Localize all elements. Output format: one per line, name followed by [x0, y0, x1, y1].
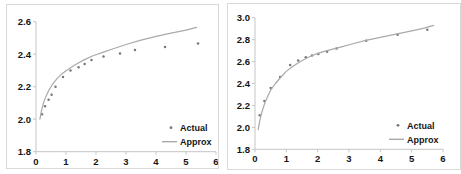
legend-approx-label: Approx	[180, 137, 212, 147]
left-chart-panel: 1.82.02.22.42.60123456ActualApprox	[6, 4, 219, 169]
y-tick-label: 1.8	[18, 146, 31, 157]
y-tick-label: 2.4	[237, 78, 251, 89]
actual-point	[54, 85, 57, 88]
x-tick-label: 3	[123, 156, 128, 167]
x-tick-label: 1	[284, 153, 290, 164]
x-tick-label: 4	[378, 153, 384, 164]
actual-point	[77, 66, 80, 69]
actual-point	[197, 42, 200, 45]
y-tick-label: 2.8	[237, 34, 250, 45]
legend-actual-marker-icon	[397, 124, 400, 127]
x-tick-label: 6	[440, 153, 445, 164]
x-tick-label: 2	[93, 156, 98, 167]
actual-point	[50, 94, 53, 97]
actual-point	[297, 59, 300, 62]
y-tick-label: 2.2	[18, 81, 31, 92]
actual-point	[90, 59, 93, 62]
x-tick-label: 3	[346, 153, 351, 164]
x-tick-label: 4	[153, 156, 159, 167]
actual-point	[119, 52, 122, 55]
actual-point	[47, 98, 50, 101]
actual-point	[69, 69, 72, 72]
legend-actual-label: Actual	[407, 121, 435, 131]
y-tick-label: 1.8	[237, 144, 250, 155]
x-tick-label: 0	[252, 153, 257, 164]
actual-point	[44, 105, 47, 108]
actual-point	[83, 63, 86, 66]
y-tick-label: 2.4	[18, 49, 32, 60]
actual-point	[62, 76, 65, 79]
actual-point	[289, 64, 292, 67]
x-tick-label: 0	[33, 156, 38, 167]
actual-point	[426, 29, 429, 32]
legend: ActualApprox	[162, 123, 212, 147]
x-tick-label: 5	[183, 156, 189, 167]
y-tick-label: 2.2	[237, 100, 250, 111]
legend-actual-label: Actual	[180, 123, 208, 133]
approx-curve	[258, 25, 434, 129]
series-actual	[258, 29, 428, 117]
actual-point	[102, 55, 105, 58]
y-tick-label: 2.0	[237, 122, 250, 133]
left-chart-canvas: 1.82.02.22.42.60123456ActualApprox	[7, 5, 218, 168]
x-tick-label: 1	[63, 156, 69, 167]
right-chart-canvas: 1.82.02.22.42.62.83.00123456ActualApprox	[228, 4, 460, 169]
y-tick-label: 2.6	[237, 56, 250, 67]
series-actual	[41, 42, 200, 115]
actual-point	[164, 46, 167, 49]
series-approx	[258, 25, 434, 129]
y-tick-label: 2.0	[18, 114, 31, 125]
x-tick-label: 2	[315, 153, 320, 164]
approx-curve	[40, 27, 197, 119]
legend-actual-marker-icon	[170, 126, 173, 129]
page: { "colors": { "approx_line": "#a9a9a9", …	[0, 0, 461, 174]
series-approx	[40, 27, 197, 119]
y-tick-label: 2.6	[18, 16, 31, 27]
x-tick-label: 6	[213, 156, 218, 167]
y-tick-label: 3.0	[237, 12, 250, 23]
x-tick-label: 5	[409, 153, 415, 164]
actual-point	[134, 49, 137, 52]
legend-approx-label: Approx	[407, 135, 439, 145]
right-chart-panel: 1.82.02.22.42.62.83.00123456ActualApprox	[227, 3, 461, 170]
legend: ActualApprox	[389, 121, 439, 145]
